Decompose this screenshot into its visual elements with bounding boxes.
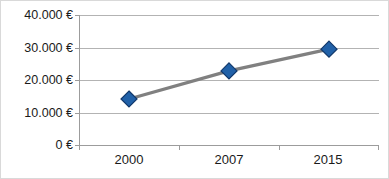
series-markers: [121, 41, 337, 107]
series-plot: [1, 1, 389, 179]
data-point-marker: [221, 63, 237, 79]
data-point-marker: [121, 91, 137, 107]
data-point-marker: [321, 41, 337, 57]
chart-figure: 40.000 € 30.000 € 20.000 € 10.000 € 0 € …: [0, 0, 389, 179]
